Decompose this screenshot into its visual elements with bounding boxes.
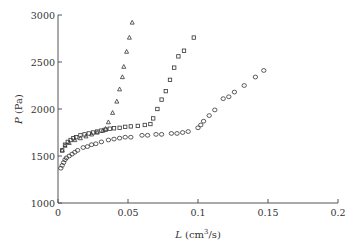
y-axis-label: P (Pa) — [13, 94, 24, 125]
square-marker — [129, 125, 132, 128]
square-marker — [143, 123, 146, 126]
data-points — [59, 20, 266, 170]
triangle-marker — [118, 87, 122, 91]
circle-marker — [140, 133, 144, 137]
circle-marker — [199, 123, 203, 127]
circle-marker — [253, 75, 257, 79]
x-tick-label: 0 — [55, 207, 61, 218]
x-tick-label: 0.15 — [257, 207, 278, 218]
triangle-marker — [130, 20, 134, 24]
y-axis: 10001500200025003000 — [31, 10, 62, 209]
x-tick-label: 0.2 — [330, 207, 345, 218]
square-marker — [164, 89, 167, 92]
circle-marker — [99, 140, 103, 144]
circle-marker — [227, 95, 231, 99]
circle-marker — [81, 146, 85, 150]
square-marker — [124, 125, 127, 128]
circle-marker — [145, 133, 149, 137]
triangle-marker — [111, 111, 115, 115]
x-axis-label: L (cm3/s) — [174, 228, 221, 240]
circle-marker — [112, 137, 116, 141]
triangle-marker — [125, 49, 129, 53]
circle-marker — [207, 114, 211, 118]
square-marker — [152, 117, 155, 120]
square-marker — [182, 49, 185, 52]
circle-marker — [262, 69, 266, 73]
square-marker — [156, 107, 159, 110]
circle-marker — [106, 138, 110, 142]
x-axis: 00.050.10.150.2 — [55, 199, 346, 218]
triangle-marker — [106, 120, 110, 124]
circle-marker — [221, 97, 225, 101]
x-tick-label: 0.05 — [117, 207, 138, 218]
y-tick-label: 2500 — [31, 57, 55, 68]
square-marker — [149, 122, 152, 125]
square-marker — [112, 127, 115, 130]
scatter-chart: 10001500200025003000 00.050.10.150.2 P (… — [0, 0, 358, 246]
square-marker — [168, 78, 171, 81]
circle-marker — [232, 90, 236, 94]
x-tick-label: 0.1 — [190, 207, 205, 218]
square-marker — [118, 126, 121, 129]
circle-marker — [117, 136, 121, 140]
triangle-marker — [120, 75, 124, 79]
circle-marker — [154, 132, 158, 136]
circle-marker — [213, 108, 217, 112]
circle-marker — [123, 135, 127, 139]
y-tick-label: 2000 — [31, 104, 55, 115]
series-circles — [59, 69, 266, 171]
y-tick-label: 1000 — [31, 198, 55, 209]
triangle-marker — [127, 35, 131, 39]
square-marker — [173, 66, 176, 69]
circle-marker — [159, 132, 163, 136]
square-marker — [160, 98, 163, 101]
y-tick-label: 1500 — [31, 151, 55, 162]
square-marker — [136, 124, 139, 127]
circle-marker — [242, 84, 246, 88]
square-marker — [108, 127, 111, 130]
circle-marker — [175, 132, 179, 136]
circle-marker — [201, 119, 205, 123]
circle-marker — [129, 135, 133, 139]
triangle-marker — [115, 99, 119, 103]
circle-marker — [169, 132, 173, 136]
square-marker — [177, 55, 180, 58]
triangle-marker — [122, 65, 126, 69]
y-tick-label: 3000 — [31, 10, 55, 21]
series-triangles — [60, 20, 134, 152]
circle-marker — [186, 130, 190, 134]
circle-marker — [89, 143, 93, 147]
square-marker — [192, 36, 195, 39]
circle-marker — [94, 142, 98, 146]
circle-marker — [180, 131, 184, 135]
circle-marker — [85, 145, 89, 149]
